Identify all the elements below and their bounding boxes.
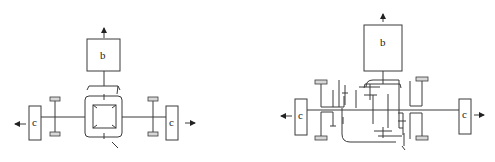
box-c-left-label: c bbox=[32, 116, 37, 128]
drivetrain-diagrams: b c c b bbox=[0, 0, 495, 162]
box-b bbox=[364, 25, 402, 71]
box-c-right-label: c bbox=[462, 108, 467, 120]
box-b-label: b bbox=[100, 49, 106, 61]
left-diagram: b c c bbox=[15, 28, 195, 148]
box-b-label: b bbox=[380, 36, 386, 48]
box-c-left-label: c bbox=[298, 109, 303, 121]
differential-core bbox=[93, 105, 116, 128]
right-diagram: b c c bbox=[281, 14, 484, 150]
box-c-right-label: c bbox=[169, 116, 174, 128]
